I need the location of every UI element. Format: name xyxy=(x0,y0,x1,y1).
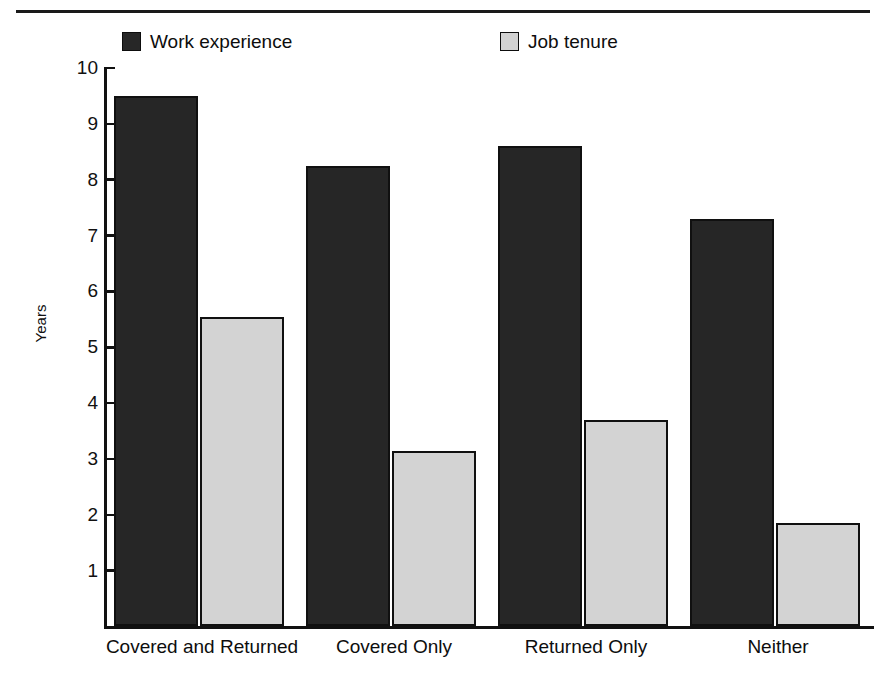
bar-job-tenure xyxy=(392,451,476,627)
bar-work-experience xyxy=(114,96,198,627)
x-axis-category-label: Returned Only xyxy=(476,636,696,658)
bar-work-experience xyxy=(690,219,774,627)
bar-work-experience xyxy=(498,146,582,626)
bar-job-tenure xyxy=(200,317,284,627)
x-axis-category-label: Covered and Returned xyxy=(92,636,312,658)
bar-job-tenure xyxy=(776,523,860,626)
x-axis-category-label: Covered Only xyxy=(284,636,504,658)
plot-area: Covered and ReturnedCovered OnlyReturned… xyxy=(0,0,886,680)
bar-job-tenure xyxy=(584,420,668,627)
bar-chart-figure: Work experience Job tenure Years 1098765… xyxy=(0,0,886,680)
x-axis-category-label: Neither xyxy=(668,636,886,658)
bar-work-experience xyxy=(306,166,390,627)
